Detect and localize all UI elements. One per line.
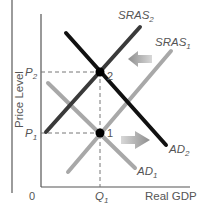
sras2-label: SRAS2 bbox=[118, 9, 154, 24]
q1-label: Q1 bbox=[95, 190, 108, 205]
origin-label: 0 bbox=[29, 190, 35, 202]
p2-label: P2 bbox=[25, 66, 38, 81]
y-axis-title: Price Level bbox=[13, 71, 25, 128]
ad-shift-right-arrow-icon bbox=[121, 131, 150, 149]
ad2-label: AD2 bbox=[168, 143, 190, 158]
point-2-label: 2 bbox=[107, 70, 113, 82]
x-axis-title: Real GDP bbox=[145, 190, 197, 202]
ad2-curve bbox=[66, 33, 166, 145]
equilibrium-point-1 bbox=[96, 129, 105, 138]
equilibrium-point-2 bbox=[96, 68, 105, 77]
p1-label: P1 bbox=[25, 127, 37, 142]
sras1-label: SRAS1 bbox=[155, 36, 191, 51]
point-1-label: 1 bbox=[107, 127, 113, 139]
sras-shift-left-arrow-icon bbox=[128, 51, 152, 67]
sras2-curve bbox=[46, 27, 140, 132]
ad1-label: AD1 bbox=[136, 165, 157, 180]
as-ad-diagram: 2 1 SRAS2 SRAS1 AD2 AD1 P2 P1 Q1 0 Real … bbox=[0, 0, 204, 215]
